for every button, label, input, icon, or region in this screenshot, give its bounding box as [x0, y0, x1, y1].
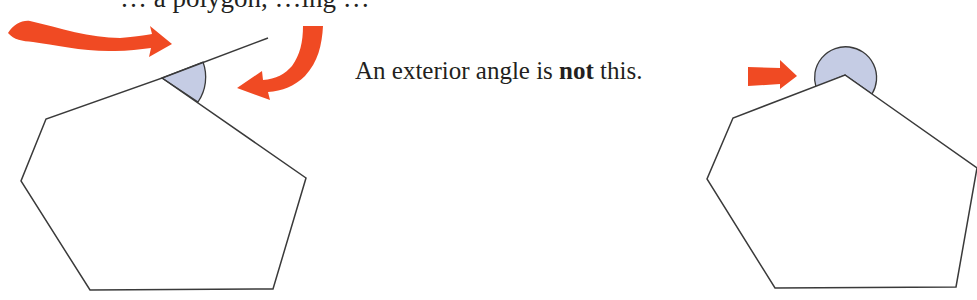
right-polygon [707, 75, 977, 288]
diagram-canvas [0, 0, 977, 300]
right-figure [707, 47, 977, 288]
straight-arrow-icon [748, 60, 797, 89]
left-figure [8, 21, 323, 290]
side-extension-line [162, 38, 268, 78]
left-polygon [21, 78, 306, 290]
curved-arrow-right-icon [237, 26, 323, 100]
curved-arrow-left-icon [8, 21, 172, 57]
